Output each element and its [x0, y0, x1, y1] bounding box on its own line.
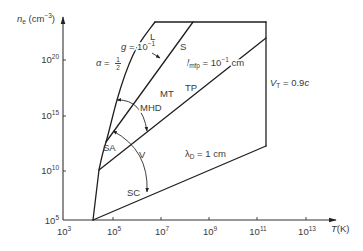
region-label-sa: SA — [103, 142, 116, 153]
region-label-mhd: MHD — [140, 102, 162, 113]
y-tick-label: 1015 — [41, 109, 59, 121]
region-label-mt: MT — [160, 88, 174, 99]
region-label-tp: TP — [185, 82, 197, 93]
label-alpha-numerator: 1 — [116, 56, 120, 63]
region-label-l: L — [150, 31, 155, 42]
label-alpha-denominator: 2 — [116, 64, 120, 71]
y-tick-label: 105 — [45, 214, 60, 226]
x-tick-label: 103 — [57, 225, 72, 237]
x-axis-title: T(K) — [331, 223, 349, 234]
region-label-s: S — [180, 41, 186, 52]
y-tick-label: 1020 — [41, 53, 59, 65]
y-axis-title: ne (cm−3) — [17, 12, 55, 25]
label-lambda-d: λD = 1 cm — [185, 148, 226, 160]
region-label-sc: SC — [127, 187, 140, 198]
label-alpha: α = — [96, 57, 110, 68]
label-v-t: VT = 0.9c — [270, 77, 309, 89]
x-tick-label: 1011 — [249, 225, 267, 237]
region-label-v: V — [139, 149, 146, 160]
debye-length-line — [93, 146, 266, 220]
g-pointer-arrow — [152, 53, 160, 58]
x-tick-label: 1013 — [298, 225, 316, 237]
sa-v-sc-arc — [113, 131, 147, 192]
plasma-regime-diagram: 105 1010 1015 1020 103 105 107 109 1011 … — [0, 0, 363, 251]
x-tick-label: 105 — [107, 225, 122, 237]
label-l-mfp: lmfp = 10−1 cm — [187, 56, 244, 70]
y-tick-label: 1010 — [41, 164, 59, 176]
x-tick-label: 109 — [203, 225, 218, 237]
x-tick-label: 107 — [155, 225, 170, 237]
